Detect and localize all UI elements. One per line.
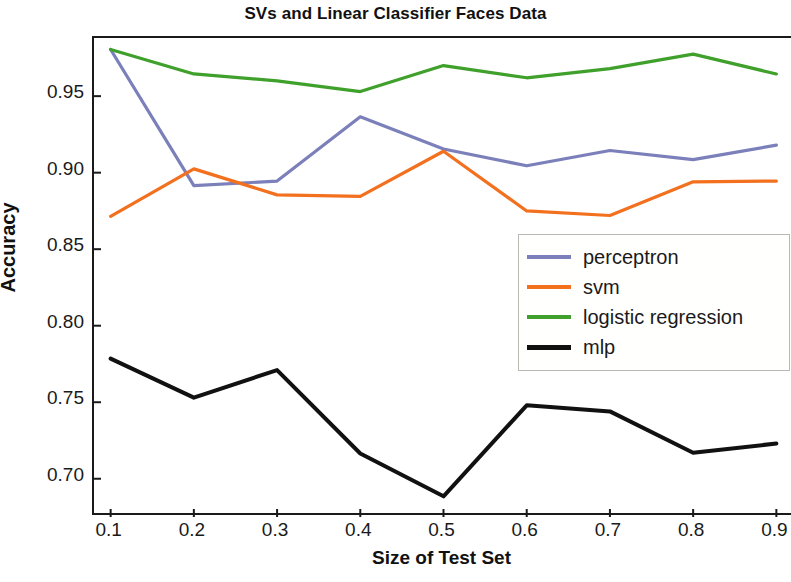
x-axis-title: Size of Test Set [92,547,791,569]
x-tick-label: 0.9 [744,519,791,541]
y-tick-label: 0.85 [22,234,84,256]
y-axis-title: Accuracy [0,158,20,338]
x-tick-label: 0.6 [495,519,555,541]
x-tick-label: 0.2 [162,519,222,541]
x-tick-label: 0.4 [328,519,388,541]
legend-label: perceptron [583,246,679,269]
legend: perceptronsvmlogistic regressionmlp [518,234,790,371]
legend-label: mlp [583,336,615,359]
y-tick-label: 0.70 [22,464,84,486]
x-tick-label: 0.5 [412,519,472,541]
y-tick-label: 0.75 [22,387,84,409]
legend-swatch-icon [527,315,571,319]
chart-figure: SVs and Linear Classifier Faces Data Acc… [0,0,791,582]
legend-item-logistic-regression[interactable]: logistic regression [525,302,781,332]
legend-item-svm[interactable]: svm [525,272,781,302]
series-line-perceptron [111,49,777,185]
series-line-logistic-regression [111,49,777,91]
legend-label: logistic regression [583,306,743,329]
x-tick-label: 0.3 [245,519,305,541]
legend-label: svm [583,276,620,299]
legend-item-mlp[interactable]: mlp [525,332,781,362]
x-tick-label: 0.1 [79,519,139,541]
y-tick-label: 0.95 [22,81,84,103]
legend-item-perceptron[interactable]: perceptron [525,242,781,272]
legend-swatch-icon [527,285,571,289]
legend-swatch-icon [527,255,571,259]
y-tick-label: 0.80 [22,311,84,333]
y-tick-label: 0.90 [22,158,84,180]
x-tick-label: 0.7 [578,519,638,541]
y-axis-tick-labels: 0.700.750.800.850.900.95 [18,0,84,582]
series-line-mlp [111,359,777,497]
legend-swatch-icon [527,345,571,350]
x-tick-label: 0.8 [661,519,721,541]
chart-title: SVs and Linear Classifier Faces Data [0,4,791,24]
